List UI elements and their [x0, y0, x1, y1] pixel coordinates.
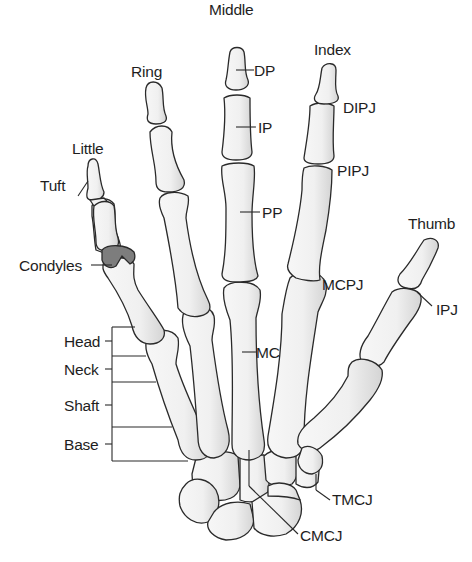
label-head: Head [64, 333, 100, 350]
label-dipj: DIPJ [343, 99, 376, 116]
distal-phalanges [87, 48, 339, 207]
label-shaft: Shaft [64, 397, 100, 414]
label-mc: MC [256, 344, 280, 361]
label-tmcj: TMCJ [332, 491, 373, 508]
label-tuft: Tuft [40, 177, 66, 194]
label-pipj: PIPJ [337, 162, 369, 179]
little-intermediate-phalanx [93, 202, 118, 251]
label-ipj: IPJ [436, 301, 458, 318]
label-dp: DP [254, 62, 275, 79]
metacarpals [146, 272, 326, 460]
label-cmcj: CMCJ [300, 527, 342, 544]
label-ip: IP [258, 119, 272, 136]
label-middle: Middle [209, 1, 253, 18]
label-neck: Neck [64, 361, 99, 378]
label-base: Base [64, 436, 99, 453]
label-condyles: Condyles [19, 257, 82, 274]
hand-bone-diagram: Middle Index Ring Little Thumb DP IP PP … [0, 0, 472, 562]
label-pp: PP [262, 204, 282, 221]
label-index: Index [314, 41, 351, 58]
label-thumb: Thumb [408, 215, 455, 232]
label-little: Little [72, 140, 104, 157]
label-mcpj: MCPJ [322, 276, 363, 293]
label-ring: Ring [131, 63, 162, 80]
